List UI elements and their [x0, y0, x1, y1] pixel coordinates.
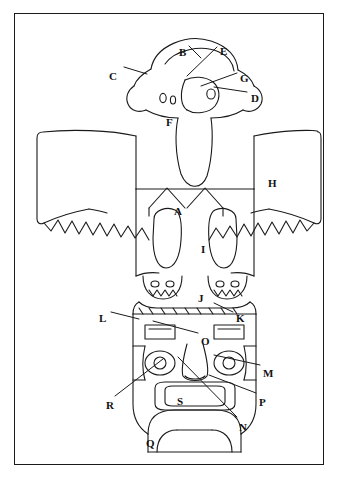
leader-P: [209, 375, 256, 393]
right-wing-feathers: [209, 220, 314, 240]
right-eye-socket: [214, 351, 244, 375]
bird-right-eye: [207, 89, 215, 99]
left-wing-outline: [37, 130, 136, 223]
totem-pole-illustration: [15, 14, 322, 463]
base-inner-left: [157, 430, 177, 452]
figure-border: A B C D E F G H I J K L M N O P R Q S: [14, 13, 324, 465]
label-C: C: [109, 71, 117, 82]
label-R: R: [106, 400, 114, 411]
bird-left-eye-inner: [170, 96, 175, 104]
label-G: G: [240, 73, 249, 84]
lower-head-left-side: [133, 314, 148, 434]
mid-right-face-left-eye: [216, 281, 224, 287]
label-J: J: [198, 293, 204, 304]
base-inner-right: [212, 430, 232, 452]
label-M: M: [263, 368, 273, 379]
mid-left-shoulder: [136, 273, 159, 276]
mid-right-face-right-eye: [231, 281, 239, 287]
label-F: F: [166, 117, 173, 128]
left-brow: [145, 325, 175, 339]
bird-left-eyeband: [146, 110, 178, 118]
bird-head-left-side: [134, 69, 151, 86]
mid-right-eye: [166, 281, 174, 287]
bird-face-panel: [176, 118, 212, 186]
nose: [182, 344, 208, 381]
body-left-oval: [153, 208, 181, 268]
lower-head-top: [139, 302, 250, 308]
mid-left-eye: [151, 281, 159, 287]
mid-right-shoulder: [231, 273, 254, 276]
label-B: B: [179, 47, 186, 58]
bird-left-ear: [127, 86, 146, 111]
left-wing-feathers: [44, 220, 149, 240]
right-brow: [214, 325, 244, 339]
leader-B: [189, 46, 201, 58]
label-P: P: [259, 397, 266, 408]
label-A: A: [174, 206, 182, 217]
label-H: H: [268, 178, 277, 189]
leader-L: [111, 312, 139, 319]
label-S: S: [177, 396, 183, 407]
bird-beak: [185, 77, 219, 113]
bird-right-eyeband: [211, 110, 243, 118]
label-Q: Q: [146, 438, 155, 449]
left-wing-lower-edge: [89, 209, 107, 213]
label-L: L: [99, 313, 106, 324]
lower-head-fringe: [139, 308, 237, 314]
bird-left-eye: [160, 93, 166, 102]
leader-C: [124, 67, 147, 74]
chevron-right: [187, 188, 223, 208]
leader-E: [187, 47, 217, 76]
lower-head-right-side: [241, 314, 256, 434]
figure-page: A B C D E F G H I J K L M N O P R Q S: [0, 0, 339, 479]
bird-beak-left-edge: [181, 80, 187, 110]
left-pupil: [154, 357, 166, 369]
lower-head-right-corner: [250, 302, 256, 314]
label-N: N: [239, 422, 247, 433]
nostril-line: [185, 376, 205, 379]
label-D: D: [251, 93, 259, 104]
left-eye-socket: [145, 351, 175, 375]
label-K: K: [236, 313, 245, 324]
label-I: I: [201, 244, 205, 255]
mid-right-teeth: [214, 290, 242, 296]
mid-left-teeth: [149, 290, 177, 296]
label-O: O: [201, 336, 210, 347]
leader-G: [201, 73, 237, 86]
leader-R: [115, 359, 163, 396]
lower-head-left-corner: [133, 302, 139, 314]
leader-M: [214, 355, 260, 365]
label-E: E: [220, 46, 227, 57]
